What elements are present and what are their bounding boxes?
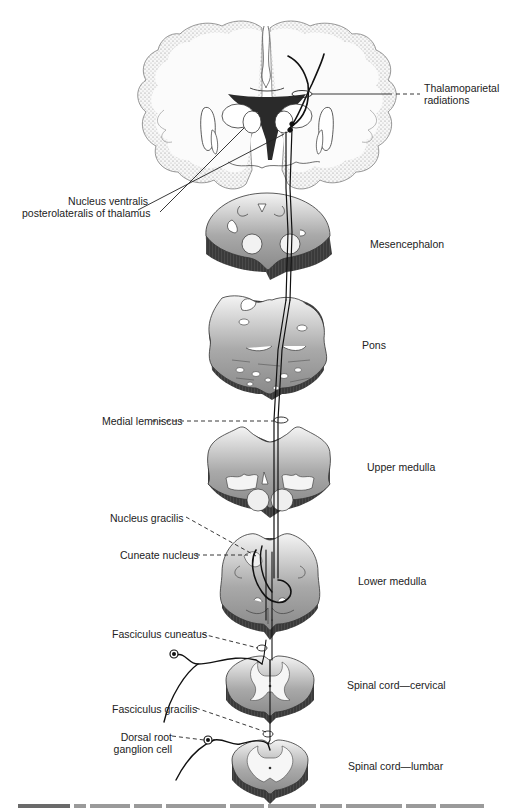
label-pons: Pons	[362, 339, 386, 351]
label-medial-lemniscus: Medial lemniscus	[102, 415, 183, 427]
label-fasciculus-cuneatus: Fasciculus cuneatus	[112, 628, 207, 640]
label-line-2: ganglion cell	[100, 743, 172, 755]
label-nucleus-gracilis: Nucleus gracilis	[110, 512, 184, 524]
label-cuneate-nucleus: Cuneate nucleus	[120, 549, 199, 561]
cerebrum-section	[138, 21, 397, 189]
pons-section	[209, 296, 327, 400]
label-fasciculus-gracilis: Fasciculus gracilis	[112, 703, 197, 715]
lower-medulla-section	[220, 534, 320, 640]
label-nucleus-vpl: Nucleus ventralis posterolateralis of th…	[22, 195, 148, 219]
label-mesencephalon: Mesencephalon	[370, 238, 444, 250]
label-line-1: Nucleus ventralis	[22, 195, 148, 207]
figure-caption-truncated	[18, 804, 498, 810]
label-lower-medulla: Lower medulla	[358, 575, 426, 587]
upper-medulla-section	[208, 427, 331, 518]
label-line-1: Dorsal root	[100, 731, 172, 743]
mesencephalon-section	[206, 193, 332, 280]
label-dorsal-root-ganglion-cell: Dorsal root ganglion cell	[100, 731, 172, 755]
label-upper-medulla: Upper medulla	[367, 461, 435, 473]
label-spinal-cord-lumbar: Spinal cord—lumbar	[348, 760, 443, 772]
label-line-2: radiations	[424, 94, 499, 106]
label-line-2: posterolateralis of thalamus	[22, 207, 148, 219]
label-spinal-cord-cervical: Spinal cord—cervical	[347, 679, 446, 691]
label-line-1: Thalamoparietal	[424, 82, 499, 94]
label-thalamoparietal-radiations: Thalamoparietal radiations	[424, 82, 499, 106]
